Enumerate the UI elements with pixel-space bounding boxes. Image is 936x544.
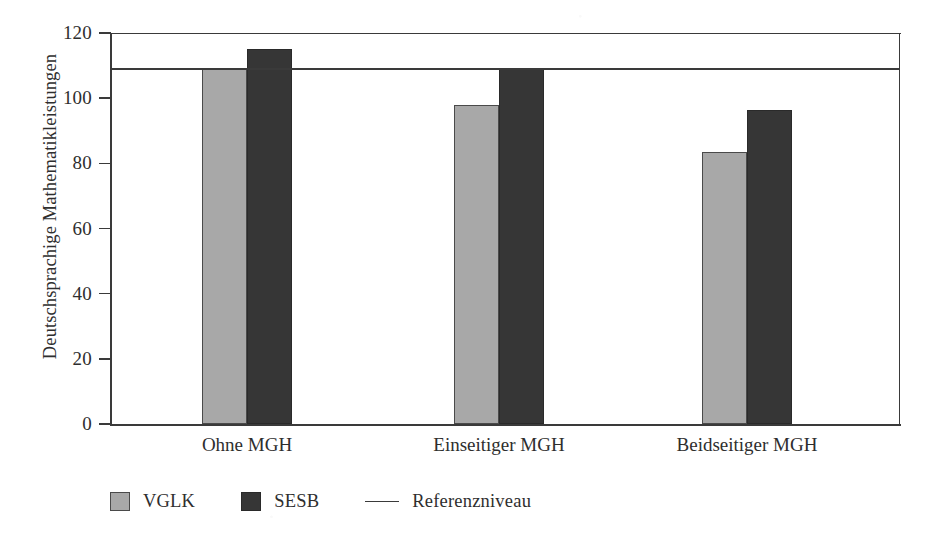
- bar-vglk-0: [202, 69, 247, 424]
- y-axis-tick-label: 100: [34, 88, 92, 107]
- y-axis-tick-label: 20: [34, 349, 92, 368]
- y-axis-tick-label: 0: [34, 414, 92, 433]
- bar-sesb-0: [247, 49, 292, 424]
- y-axis-tick-label: 40: [34, 284, 92, 303]
- y-axis-tick-label: 60: [34, 219, 92, 238]
- y-axis-tick-label: 80: [34, 153, 92, 172]
- legend-label-sesb: SESB: [274, 492, 319, 511]
- bar-vglk-1: [454, 105, 499, 424]
- bar-chart-figure: Deutschsprachige Mathematikleistungen 02…: [0, 0, 936, 544]
- legend-swatch-icon-sesb: [241, 492, 261, 511]
- legend-item-vglk: VGLK: [110, 492, 195, 511]
- chart-legend: VGLK SESB Referenzniveau: [110, 492, 577, 511]
- y-axis-tick-label: 120: [34, 23, 92, 42]
- x-axis-line: [110, 424, 901, 426]
- legend-label-referenzniveau: Referenzniveau: [412, 492, 531, 511]
- legend-item-referenzniveau: Referenzniveau: [365, 492, 531, 511]
- legend-label-vglk: VGLK: [143, 492, 195, 511]
- legend-swatch-icon-vglk: [110, 492, 130, 511]
- reference-line: [110, 68, 900, 70]
- plot-area: [110, 33, 900, 424]
- x-axis-category-label: Beidseitiger MGH: [597, 434, 897, 456]
- legend-item-sesb: SESB: [241, 492, 319, 511]
- bar-vglk-2: [702, 152, 747, 424]
- legend-line-icon-referenzniveau: [365, 501, 399, 502]
- bar-sesb-1: [499, 69, 544, 424]
- bar-sesb-2: [747, 110, 792, 424]
